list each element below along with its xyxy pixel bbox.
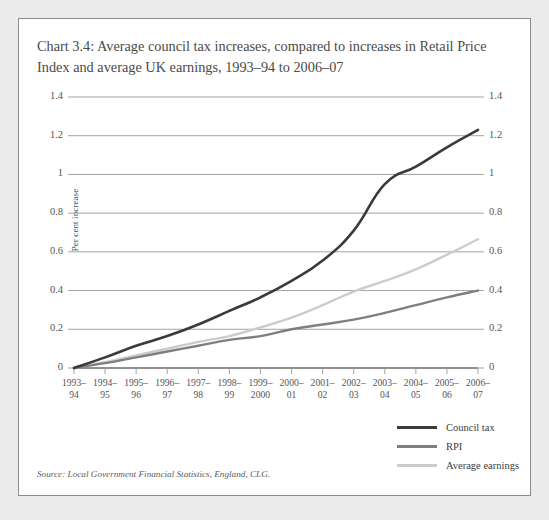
legend-item: Average earnings [397,456,519,474]
y-tick-label-right: 1.4 [489,90,523,101]
legend-item: RPI [397,437,519,455]
y-tick-label: 0.2 [29,322,63,333]
y-tick-label: 0 [29,361,63,372]
y-tick-label: 1 [29,167,63,178]
x-tick-label: 2006–07 [456,377,500,402]
y-tick-label-right: 0.2 [489,322,523,333]
legend-item: Council tax [397,418,519,436]
y-tick-label-right: 0.8 [489,206,523,217]
y-tick-label: 1.2 [29,129,63,140]
legend-swatch-icon [397,464,437,467]
legend-label: Council tax [446,422,495,433]
y-tick-label: 0.8 [29,206,63,217]
legend-label: RPI [446,441,462,452]
chart-panel: Chart 3.4: Average council tax increases… [18,18,531,496]
legend-swatch-icon [397,426,437,429]
x-tick-label-line2: 07 [456,389,500,401]
y-tick-label-right: 0.4 [489,284,523,295]
y-tick-label: 1.4 [29,90,63,101]
source-note: Source: Local Government Financial Stati… [37,469,270,479]
y-tick-label-right: 0 [489,361,523,372]
legend-label: Average earnings [446,460,519,471]
chart-page: Chart 3.4: Average council tax increases… [0,0,549,520]
x-tick-label-line1: 2006– [456,377,500,389]
y-tick-label-right: 1 [489,167,523,178]
y-tick-label: 0.4 [29,284,63,295]
y-tick-label-right: 0.6 [489,245,523,256]
legend-swatch-icon [397,445,437,448]
chart-legend: Council taxRPIAverage earnings [397,418,519,475]
y-tick-label: 0.6 [29,245,63,256]
y-tick-label-right: 1.2 [489,129,523,140]
